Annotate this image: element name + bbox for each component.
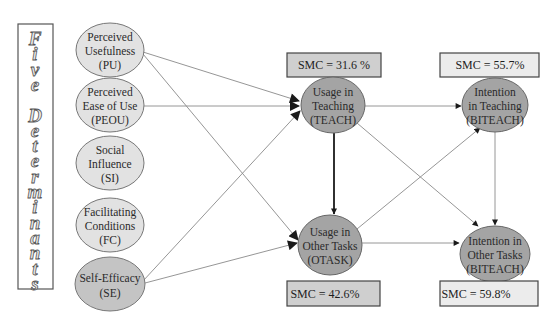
svg-text:(PEOU): (PEOU)	[91, 114, 129, 127]
svg-text:Usefulness: Usefulness	[85, 45, 136, 57]
usage-otask-node: Usage in Other Tasks (OTASK)	[298, 215, 362, 275]
svg-text:in Teaching: in Teaching	[468, 100, 522, 113]
edge-se-teach	[143, 111, 300, 281]
edge-pu-otask	[143, 54, 298, 240]
svg-text:Intention in: Intention in	[468, 235, 522, 247]
svg-text:Teaching: Teaching	[312, 100, 354, 113]
svg-text:(FC): (FC)	[99, 234, 121, 247]
edge-teach-biteach-other	[357, 123, 478, 226]
smc-box-otask: SMC = 42.6%	[287, 281, 380, 306]
svg-text:Intention: Intention	[474, 86, 516, 98]
svg-text:Conditions: Conditions	[85, 220, 136, 232]
determinant-si: Social Influence (SI)	[76, 136, 144, 190]
edge-se-otask	[145, 243, 297, 283]
svg-text:Other Tasks: Other Tasks	[303, 240, 358, 252]
svg-text:Perceived: Perceived	[87, 86, 133, 98]
svg-text:Perceived: Perceived	[87, 31, 133, 43]
intention-teaching-node: Intention in Teaching (BITEACH)	[462, 78, 528, 132]
determinant-se: Self-Efficacy (SE)	[75, 257, 145, 311]
svg-text:Social: Social	[96, 144, 125, 156]
svg-text:Influence: Influence	[88, 158, 131, 170]
determinants-letter: s	[30, 273, 38, 294]
svg-text:Usage in: Usage in	[313, 86, 354, 99]
smc-box-biteach: SMC = 55.7%	[440, 53, 539, 77]
edge-otask-biteach	[357, 128, 480, 229]
five-determinants-box: FiveDeterminants	[18, 24, 53, 294]
determinant-fc: Facilitating Conditions (FC)	[76, 198, 144, 252]
determinants-letter: e	[31, 74, 40, 95]
edge-pu-teach	[143, 52, 299, 101]
determinant-peou: Perceived Ease of Use (PEOU)	[76, 78, 144, 132]
svg-text:Self-Efficacy: Self-Efficacy	[79, 272, 140, 285]
svg-text:(TEACH): (TEACH)	[310, 114, 356, 127]
svg-text:(BITEACH): (BITEACH)	[466, 263, 524, 276]
smc-box-biteach-other: SMC = 59.8%	[440, 281, 538, 306]
determinant-pu: Perceived Usefulness (PU)	[76, 23, 144, 77]
sem-path-diagram: FiveDeterminants Perceived Usefulness (P…	[0, 0, 558, 320]
usage-teach-node: Usage in Teaching (TEACH)	[301, 77, 365, 133]
svg-text:SMC = 55.7%: SMC = 55.7%	[455, 58, 524, 72]
svg-text:SMC = 42.6%: SMC = 42.6%	[290, 287, 359, 301]
intention-other-tasks-node: Intention in Other Tasks (BITEACH)	[460, 226, 530, 282]
svg-text:Other Tasks: Other Tasks	[468, 249, 523, 261]
svg-text:SMC = 59.8%: SMC = 59.8%	[441, 287, 510, 301]
svg-text:Usage in: Usage in	[310, 226, 351, 239]
svg-text:(SE): (SE)	[99, 287, 120, 300]
svg-text:(OTASK): (OTASK)	[307, 254, 352, 267]
svg-text:Facilitating: Facilitating	[84, 206, 137, 219]
svg-text:SMC = 31.6 %: SMC = 31.6 %	[298, 58, 370, 72]
smc-box-teach: SMC = 31.6 %	[287, 53, 381, 77]
svg-text:(SI): (SI)	[101, 172, 119, 185]
svg-text:Ease of Use: Ease of Use	[83, 100, 138, 112]
svg-text:(BITEACH): (BITEACH)	[466, 114, 524, 127]
svg-text:(PU): (PU)	[99, 59, 122, 72]
